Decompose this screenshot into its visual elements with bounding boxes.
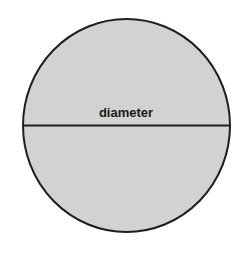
circle-diagram: diameter	[0, 0, 244, 260]
diameter-label: diameter	[99, 105, 153, 120]
